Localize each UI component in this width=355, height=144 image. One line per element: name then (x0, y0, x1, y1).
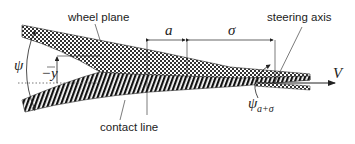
steering-axis-label: steering axis (267, 11, 332, 23)
sigma-symbol: σ (228, 22, 236, 38)
contact-line-label: contact line (100, 121, 158, 133)
psi-symbol: ψ (14, 57, 24, 73)
psi-a-sigma-subscript: a+σ (257, 103, 275, 114)
wheel-plane-label: wheel plane (67, 11, 129, 23)
minus-y-symbol: −y (41, 65, 58, 81)
tire-kinematics-diagram: wheel plane steering axis contact line ψ… (0, 0, 355, 144)
a-symbol: a (165, 22, 173, 38)
velocity-symbol: V (333, 65, 344, 81)
